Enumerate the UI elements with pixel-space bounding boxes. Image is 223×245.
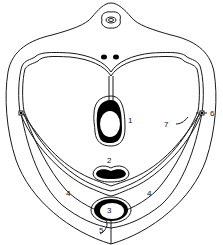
label-1: 1	[128, 116, 133, 125]
label-7: 7	[164, 120, 169, 129]
organ-3-lumen	[100, 203, 124, 219]
label-4-right: 4	[147, 189, 152, 198]
label-4-left: 4	[66, 189, 71, 198]
label-3: 3	[107, 206, 112, 215]
organ-2-fill	[96, 169, 126, 179]
spinal-cord-outline	[102, 12, 121, 28]
label-2: 2	[107, 156, 112, 165]
label-6: 6	[210, 109, 215, 118]
cross-section-diagram: 1 2 3 4 4 5 6 7	[0, 0, 223, 245]
vessel-left	[101, 55, 107, 60]
label-5: 5	[99, 226, 104, 235]
vessel-right	[113, 55, 119, 60]
organ-1-lumen	[100, 111, 120, 137]
spinal-cord-core	[106, 17, 116, 23]
